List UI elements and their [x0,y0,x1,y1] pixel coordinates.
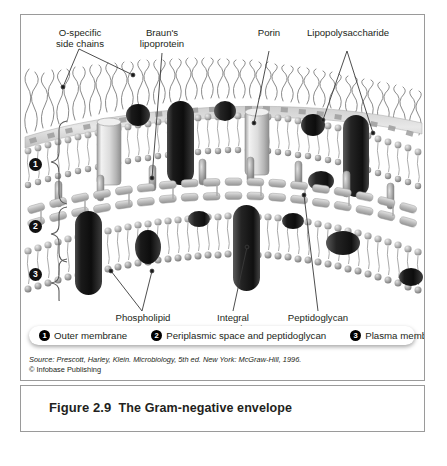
label-line-1: O-specific [45,27,115,38]
label-peptidoglycan: Peptidoglycan [277,312,359,323]
label-porin: Porin [240,27,298,38]
label-brauns-lipoprotein: Braun's lipoprotein [129,27,195,49]
caption-box: Figure 2.9 The Gram-negative envelope [20,385,425,432]
label-lipopolysaccharide: Lipopolysaccharide [296,27,400,38]
legend-label-2: Periplasmic space and peptidoglycan [166,330,326,341]
legend-item-plasma-membrane: 3 Plasma membrane [350,330,425,341]
leader-o-specific-side-chains [61,49,135,89]
figure-frame: O-specific side chains Braun's lipoprote… [20,14,425,381]
source-citation: Source: Prescott, Harley, Klein. Microbi… [29,355,301,365]
layer-number-1: 1 [29,158,42,171]
legend-item-outer-membrane: 1 Outer membrane [39,330,127,341]
layer-braces [49,119,71,301]
layer-number-2: 2 [29,220,42,233]
integral-protein-artwork [75,205,423,295]
label-line-1: Integral [203,312,263,323]
leader-phospholipid [109,269,154,311]
label-line-1: Peptidoglycan [277,312,359,323]
figure-number: Figure 2.9 [49,400,111,415]
legend-item-periplasmic-space: 2 Periplasmic space and peptidoglycan [151,330,326,341]
label-line-1: Braun's [129,27,195,38]
layer-legend-bar: 1 Outer membrane 2 Periplasmic space and… [29,326,415,345]
legend-label-1: Outer membrane [54,330,127,341]
label-line-1: Phospholipid [103,312,183,323]
layer-number-3: 3 [29,268,42,281]
label-line-2: lipoprotein [129,38,195,49]
label-line-1: Porin [240,27,298,38]
label-line-2: side chains [45,38,115,49]
legend-number-2: 2 [151,330,162,341]
label-line-1: Lipopolysaccharide [296,27,400,38]
legend-label-3: Plasma membrane [365,330,425,341]
leader-peptidoglycan [302,193,318,311]
figure-caption: Figure 2.9 The Gram-negative envelope [49,400,292,415]
legend-number-3: 3 [350,330,361,341]
plasma-membrane-artwork [24,205,423,295]
source-block: Source: Prescott, Harley, Klein. Microbi… [29,355,301,375]
legend-number-1: 1 [39,330,50,341]
copyright-line: © Infobase Publishing [29,365,301,375]
label-o-specific-side-chains: O-specific side chains [45,27,115,49]
label-phospholipid: Phospholipid [103,312,183,323]
figure-title: The Gram-negative envelope [119,401,293,415]
